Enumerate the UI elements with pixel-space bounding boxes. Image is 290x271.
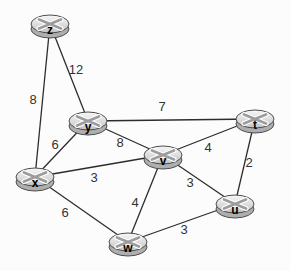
node-label-z: z (47, 23, 53, 37)
node-label-v: v (160, 154, 167, 168)
edge-weight-z-x: 8 (29, 92, 36, 107)
router-node-t: t (236, 110, 274, 133)
router-node-z: z (31, 15, 69, 38)
router-node-u: u (216, 195, 254, 218)
network-graph-svg: 1287863643423 zytxvuw (0, 0, 290, 271)
edge-y-t (88, 119, 255, 121)
edge-weight-y-x: 6 (51, 137, 58, 152)
edge-weight-v-w: 4 (131, 195, 138, 210)
nodes-layer: zytxvuw (16, 15, 274, 256)
edge-weight-v-t: 4 (204, 140, 211, 155)
node-label-u: u (231, 203, 238, 217)
node-label-x: x (32, 176, 39, 190)
router-node-w: w (109, 233, 147, 256)
network-topology-figure: 1287863643423 zytxvuw (0, 0, 290, 271)
edge-weight-z-y: 12 (69, 62, 83, 77)
edge-weight-v-u: 3 (186, 175, 193, 190)
edge-weight-y-t: 7 (158, 99, 165, 114)
router-node-x: x (16, 168, 54, 191)
edge-weight-x-v: 3 (90, 170, 97, 185)
edge-z-x (35, 24, 50, 177)
edge-weight-w-u: 3 (180, 222, 187, 237)
router-node-y: y (69, 112, 107, 135)
router-node-v: v (144, 146, 182, 169)
node-label-y: y (85, 120, 92, 134)
node-label-t: t (253, 118, 257, 132)
node-label-w: w (122, 241, 133, 255)
edge-weight-y-v: 8 (116, 135, 123, 150)
edge-weight-t-u: 2 (245, 155, 252, 170)
edge-weight-x-w: 6 (61, 205, 68, 220)
